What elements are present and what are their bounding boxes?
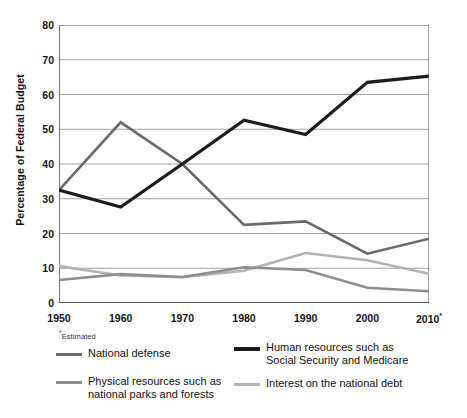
y-tick-label: 40 — [42, 158, 54, 170]
estimated-marker: * — [439, 312, 442, 319]
legend-swatch-icon — [234, 347, 260, 351]
legend-swatch-icon — [56, 381, 82, 384]
footnote: *Estimated — [59, 329, 96, 341]
y-tick-label: 0 — [48, 297, 54, 309]
x-tick-label: 1950 — [47, 312, 70, 324]
chart-legend: National defense Human resources such as… — [46, 345, 456, 413]
plot-area: 80706050403020100 1950196019701980199020… — [59, 25, 429, 303]
y-tick-label: 50 — [42, 123, 54, 135]
x-tick-label: 2010* — [416, 312, 442, 325]
y-tick-label: 60 — [42, 89, 54, 101]
legend-item-interest: Interest on the national debt — [234, 377, 402, 390]
legend-item-national-defense: National defense — [56, 347, 171, 360]
legend-item-physical-resources: Physical resources such as national park… — [56, 375, 221, 401]
y-axis-title-text: Percentage of Federal Budget — [14, 40, 26, 260]
legend-item-human-resources: Human resources such as Social Security … — [234, 341, 408, 367]
x-tick-label: 1970 — [171, 312, 194, 324]
y-tick-label: 80 — [42, 19, 54, 31]
y-tick-label: 10 — [42, 262, 54, 274]
y-axis-title: Percentage of Federal Budget — [14, 0, 30, 40]
series-line — [59, 122, 429, 253]
y-tick-label: 20 — [42, 228, 54, 240]
x-tick-label: 2000 — [356, 312, 379, 324]
legend-label: National defense — [88, 347, 171, 360]
y-tick-label: 30 — [42, 193, 54, 205]
x-tick-label: 1960 — [109, 312, 132, 324]
legend-label: Physical resources such as national park… — [88, 375, 221, 401]
legend-swatch-icon — [56, 353, 82, 356]
line-chart: Percentage of Federal Budget 80706050403… — [0, 0, 467, 418]
series-line — [59, 76, 429, 207]
legend-swatch-icon — [234, 383, 260, 386]
x-tick-label: 1990 — [294, 312, 317, 324]
legend-label: Interest on the national debt — [266, 377, 402, 390]
x-tick-label: 1980 — [232, 312, 255, 324]
y-tick-label: 70 — [42, 54, 54, 66]
footnote-text: Estimated — [62, 332, 96, 341]
plot-canvas — [59, 25, 429, 303]
legend-label: Human resources such as Social Security … — [266, 341, 408, 367]
